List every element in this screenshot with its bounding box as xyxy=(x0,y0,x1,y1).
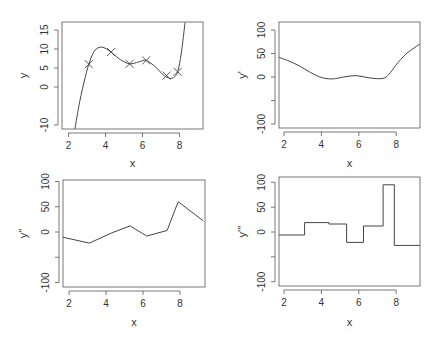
y-tick-label: -10 xyxy=(39,117,50,132)
y-axis-label: y' xyxy=(236,71,248,79)
x-tick-label: 8 xyxy=(177,298,183,309)
cross-marker-icon xyxy=(107,48,115,56)
y-tick-label: -100 xyxy=(256,271,267,291)
y-plot: 2468-10051015xy xyxy=(17,22,203,169)
cross-marker-icon xyxy=(85,60,93,68)
x-tick-label: 4 xyxy=(103,140,109,151)
y-double-prime-plot: 2468-100050100xy'' xyxy=(17,173,205,328)
y-tick-label: 50 xyxy=(256,201,267,213)
piecewise-line xyxy=(62,202,203,243)
y-tick-label: 0 xyxy=(256,74,267,80)
x-tick-label: 8 xyxy=(393,139,399,150)
x-tick-label: 8 xyxy=(393,297,399,308)
x-axis-label: x xyxy=(347,157,353,169)
x-axis: 2468 xyxy=(66,291,183,309)
x-tick-label: 4 xyxy=(103,298,109,309)
x-axis: 2468 xyxy=(281,132,399,150)
plot-frame xyxy=(63,180,205,287)
y-triple-prime-plot: 2468-100050100xy''' xyxy=(236,174,420,328)
smooth-curve xyxy=(75,22,185,128)
x-tick-label: 2 xyxy=(281,297,287,308)
x-tick-label: 4 xyxy=(319,297,325,308)
y-tick-label: 15 xyxy=(39,24,50,36)
y-tick-label: 0 xyxy=(256,229,267,235)
x-axis-label: x xyxy=(347,316,353,328)
smooth-curve xyxy=(277,44,420,79)
x-tick-label: 6 xyxy=(140,140,146,151)
y-axis-label: y'' xyxy=(17,229,29,239)
x-axis: 2468 xyxy=(281,290,399,308)
y-tick-label: 0 xyxy=(39,84,50,90)
y-tick-label: 50 xyxy=(40,201,51,213)
y-tick-label: 100 xyxy=(256,21,267,38)
derivative-plot-grid: 2468-10051015xy2468-100050100xy'2468-100… xyxy=(0,0,442,344)
x-tick-label: 6 xyxy=(140,298,146,309)
y-prime-plot: 2468-100050100xy' xyxy=(236,21,420,169)
y-tick-label: 100 xyxy=(40,173,51,190)
y-tick-label: 5 xyxy=(39,65,50,71)
x-tick-label: 2 xyxy=(66,298,72,309)
y-axis-label: y xyxy=(17,72,29,78)
y-tick-label: 0 xyxy=(40,229,51,235)
x-axis: 2468 xyxy=(66,133,183,151)
y-tick-label: 10 xyxy=(39,43,50,55)
y-axis: -10051015 xyxy=(39,24,58,132)
x-axis-label: x xyxy=(130,157,136,169)
plot-frame xyxy=(279,177,420,286)
x-tick-label: 4 xyxy=(319,139,325,150)
x-tick-label: 2 xyxy=(281,139,287,150)
y-tick-label: 100 xyxy=(256,174,267,191)
y-axis: -100050100 xyxy=(40,173,59,293)
x-tick-label: 8 xyxy=(177,140,183,151)
y-tick-label: 50 xyxy=(256,48,267,60)
y-axis: -100050100 xyxy=(256,174,275,292)
y-tick-label: -100 xyxy=(256,114,267,134)
y-axis: -100050100 xyxy=(256,21,275,134)
y-axis-label: y''' xyxy=(236,226,248,238)
step-line xyxy=(277,185,420,246)
x-tick-label: 2 xyxy=(66,140,72,151)
x-axis-label: x xyxy=(131,316,137,328)
plot-frame xyxy=(279,22,420,128)
x-tick-label: 6 xyxy=(356,297,362,308)
x-tick-label: 6 xyxy=(356,139,362,150)
y-tick-label: -100 xyxy=(40,272,51,292)
cross-marker-icon xyxy=(174,68,182,76)
